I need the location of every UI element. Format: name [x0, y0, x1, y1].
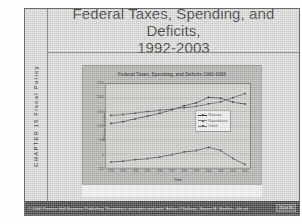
legend-swatch-icon: [198, 120, 207, 121]
page-title: Federal Taxes, Spending, and Deficits, 1…: [48, 8, 299, 56]
data-point-marker: [159, 156, 161, 158]
data-point-marker: [208, 103, 210, 105]
data-point-marker: [208, 147, 210, 149]
data-point-marker: [244, 164, 246, 166]
data-point-marker: [195, 105, 197, 107]
data-point-marker: [220, 97, 222, 99]
chart-baseline-strip: [82, 185, 262, 197]
footer-credit: © 2006 Prentice Hall Business Publishing…: [28, 206, 276, 211]
data-point-marker: [232, 101, 234, 103]
data-point-marker: [134, 112, 136, 114]
x-tick-label: 2001: [215, 170, 227, 178]
data-point-marker: [147, 111, 149, 113]
data-point-marker: [244, 103, 246, 105]
data-point-marker: [171, 108, 173, 110]
y-axis-ticks: -50005001000150020002500: [83, 83, 105, 169]
x-tick-label: 1997: [166, 170, 178, 178]
x-tick-label: 1995: [142, 170, 154, 178]
title-area: Federal Taxes, Spending, and Deficits, 1…: [48, 9, 299, 53]
chapter-label: CHAPTER 15 Fiscal Policy: [33, 65, 39, 167]
data-point-marker: [159, 112, 161, 114]
x-tick-label: 1992: [105, 170, 117, 178]
data-point-marker: [195, 150, 197, 152]
x-tick-label: 1998: [178, 170, 190, 178]
y-tick-label: 2000: [84, 95, 105, 99]
y-tick-label: 1000: [84, 124, 105, 128]
x-axis-ticks: 1992199319941995199619971998199920002001…: [105, 170, 251, 178]
slide-body: Federal Taxes, Spending, and Deficits 19…: [48, 53, 299, 201]
data-point-marker: [195, 102, 197, 104]
chart-title: Federal Taxes, Spending, and Deficits 19…: [83, 72, 261, 77]
y-tick-label: 1500: [84, 110, 105, 114]
legend-item: Deficit: [198, 124, 228, 130]
y-tick-label: -500: [84, 167, 105, 171]
x-tick-label: 2002: [227, 170, 239, 178]
legend-label: Deficit: [209, 124, 218, 128]
series-line: [111, 147, 245, 164]
data-point-marker: [183, 151, 185, 153]
chapter-rail: CHAPTER 15 Fiscal Policy: [25, 9, 48, 215]
slide-title-line-1: Federal Taxes, Spending, and Deficits,: [73, 8, 275, 39]
legend-swatch-icon: [198, 126, 207, 127]
data-point-marker: [110, 123, 112, 125]
x-axis-title: Year: [105, 178, 251, 182]
x-tick-label: 1996: [154, 170, 166, 178]
page-indicator: 15 of 35: [276, 204, 296, 212]
chart-figure: Federal Taxes, Spending, and Deficits 19…: [82, 65, 262, 185]
data-point-marker: [208, 96, 210, 98]
data-point-marker: [147, 158, 149, 160]
x-tick-label: 1994: [129, 170, 141, 178]
chart-legend: RevenueExpendituresDeficit: [195, 110, 231, 132]
scanned-page: CHAPTER 15 Fiscal Policy Federal Taxes, …: [0, 0, 302, 224]
legend-label: Revenue: [209, 113, 222, 117]
data-point-marker: [159, 109, 161, 111]
data-point-marker: [110, 114, 112, 116]
data-point-marker: [122, 121, 124, 123]
x-tick-label: 2003: [239, 170, 251, 178]
data-point-marker: [110, 161, 112, 163]
data-point-marker: [134, 159, 136, 161]
data-point-marker: [183, 105, 185, 107]
y-tick-label: 0: [84, 153, 105, 157]
data-point-marker: [122, 160, 124, 162]
data-point-marker: [147, 115, 149, 117]
data-point-marker: [244, 93, 246, 95]
y-tick-label: 500: [84, 138, 105, 142]
legend-label: Expenditures: [209, 119, 228, 123]
data-point-marker: [232, 97, 234, 99]
x-tick-label: 2000: [202, 170, 214, 178]
data-point-marker: [232, 158, 234, 160]
data-point-marker: [183, 107, 185, 109]
slide-footer: © 2006 Prentice Hall Business Publishing…: [25, 201, 299, 215]
x-tick-label: 1993: [117, 170, 129, 178]
data-point-marker: [220, 101, 222, 103]
data-point-marker: [220, 150, 222, 152]
legend-swatch-icon: [198, 115, 207, 116]
data-point-marker: [122, 114, 124, 116]
data-point-marker: [134, 118, 136, 120]
presentation-slide: CHAPTER 15 Fiscal Policy Federal Taxes, …: [24, 8, 300, 216]
x-tick-label: 1999: [190, 170, 202, 178]
data-point-marker: [171, 154, 173, 156]
y-tick-label: 2500: [84, 81, 105, 85]
